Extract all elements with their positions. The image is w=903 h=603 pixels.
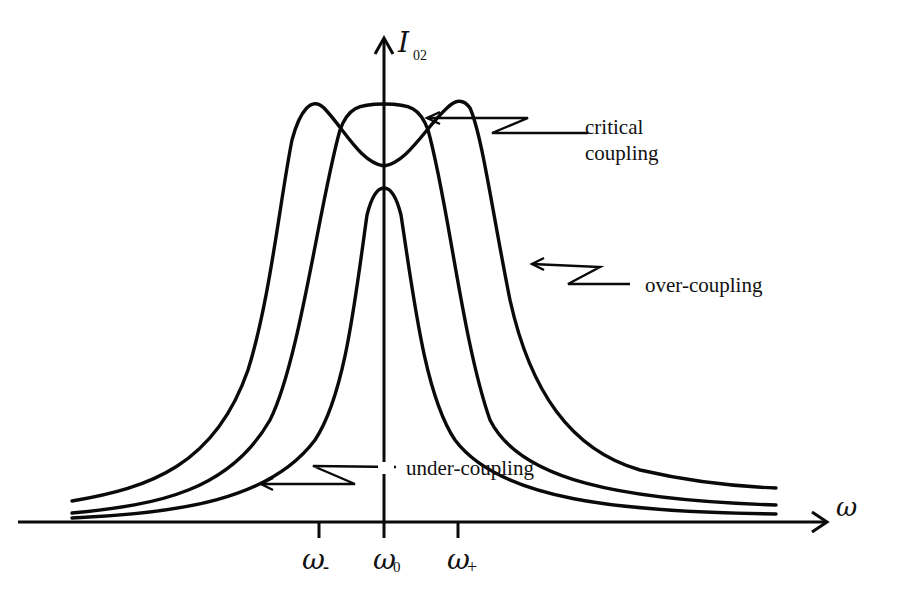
tick-label-omega-minus: ω xyxy=(302,543,325,576)
axis-gap xyxy=(378,462,394,474)
x-axis-label: ω xyxy=(836,492,857,522)
under-coupling-label: under-coupling xyxy=(406,456,534,480)
over-coupling-label: over-coupling xyxy=(645,273,763,297)
y-axis-subscript: 02 xyxy=(413,48,427,63)
curve-over-coupling xyxy=(72,101,776,501)
critical-coupling-label-line1: critical xyxy=(585,115,643,139)
annotation-critical-coupling: critical coupling xyxy=(427,112,659,165)
annotation-under-coupling: under-coupling xyxy=(261,456,534,490)
under-coupling-leader xyxy=(261,466,396,484)
critical-coupling-label-line2: coupling xyxy=(585,141,659,165)
tick-labels: ω - ω 0 ω + xyxy=(302,543,477,577)
tick-sub-omega-zero: 0 xyxy=(393,559,401,575)
tick-sub-omega-plus: + xyxy=(467,557,477,577)
over-coupling-leader xyxy=(532,264,630,284)
annotation-over-coupling: over-coupling xyxy=(532,258,763,297)
tick-sub-omega-minus: - xyxy=(323,557,329,577)
resonance-diagram: I 02 ω ω - ω 0 ω + critical coupling ove… xyxy=(0,0,903,603)
critical-coupling-leader xyxy=(427,118,588,133)
y-axis-label: I xyxy=(397,26,410,59)
curve-critical-coupling xyxy=(72,104,776,513)
